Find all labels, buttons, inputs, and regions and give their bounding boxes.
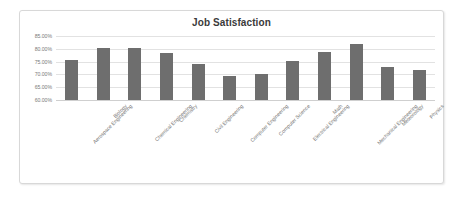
bar[interactable] — [223, 76, 236, 100]
x-axis-tick-label: Computer Engineering — [249, 103, 289, 143]
bar[interactable] — [97, 48, 110, 100]
chart-title: Job Satisfaction — [20, 17, 443, 28]
bar[interactable] — [65, 60, 78, 100]
bar[interactable] — [255, 74, 268, 100]
bar[interactable] — [413, 70, 426, 100]
y-axis-tick-label: 75.00% — [35, 59, 52, 65]
y-axis-tick-label: 70.00% — [35, 71, 52, 77]
bar[interactable] — [128, 48, 141, 100]
bar[interactable] — [350, 44, 363, 100]
bar[interactable] — [318, 52, 331, 100]
y-axis: 85.00%80.00%75.00%70.00%65.00%60.00% — [20, 36, 54, 100]
x-axis: Aerospace EngineeringBiologyChemical Eng… — [56, 101, 435, 181]
x-axis-tick-label: Electrical Engineering — [311, 103, 350, 142]
y-axis-tick-label: 65.00% — [35, 84, 52, 90]
bar[interactable] — [160, 53, 173, 100]
y-axis-tick-label: 85.00% — [35, 33, 52, 39]
x-axis-tick-label: Civil Engineering — [213, 103, 244, 134]
bar[interactable] — [192, 64, 205, 100]
y-axis-tick-label: 60.00% — [35, 97, 52, 103]
bar[interactable] — [381, 67, 394, 100]
bar-series — [56, 36, 435, 100]
y-axis-tick-label: 80.00% — [35, 46, 52, 52]
x-axis-tick-label: Aerospace Engineering — [91, 103, 133, 145]
chart-container: Job Satisfaction 85.00%80.00%75.00%70.00… — [19, 10, 444, 184]
x-axis-tick-label: Physics — [428, 103, 445, 120]
bar[interactable] — [286, 61, 299, 100]
